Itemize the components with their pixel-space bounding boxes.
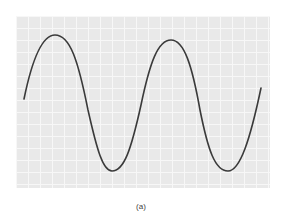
sine-wave-figure: (a)	[0, 0, 282, 220]
sine-wave-curve	[0, 0, 282, 220]
waveform-path	[24, 35, 261, 171]
figure-caption: (a)	[0, 202, 282, 211]
